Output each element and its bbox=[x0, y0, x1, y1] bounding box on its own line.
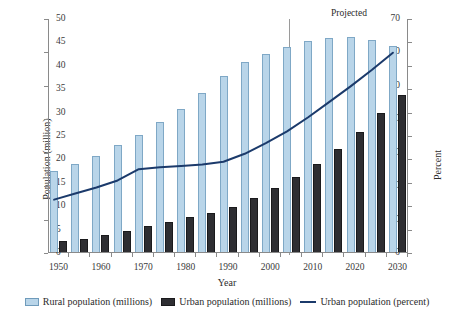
bar-urban bbox=[377, 113, 385, 252]
bar-rural bbox=[50, 171, 58, 252]
bar-rural bbox=[368, 40, 376, 252]
bar-urban bbox=[250, 198, 258, 252]
x-axis-tick bbox=[386, 253, 387, 257]
y-axis-left-tick bbox=[44, 153, 48, 154]
y-axis-right-tick bbox=[408, 42, 412, 43]
legend-item-rural: Rural population (millions) bbox=[25, 296, 152, 307]
x-axis-tick bbox=[111, 253, 112, 257]
bar-urban bbox=[292, 177, 300, 252]
x-axis-tick bbox=[174, 253, 175, 257]
bar-group bbox=[220, 19, 237, 252]
y-axis-left-tick bbox=[44, 86, 48, 87]
y-axis-right-title: Percent bbox=[432, 150, 443, 180]
legend-item-urban: Urban population (millions) bbox=[161, 296, 291, 307]
bar-group bbox=[325, 19, 342, 252]
bar-rural bbox=[114, 145, 122, 252]
x-axis-tick-label: 1970 bbox=[134, 263, 153, 273]
y-axis-right-tick bbox=[408, 159, 412, 160]
y-axis-left-tick bbox=[44, 52, 48, 53]
legend-label-urban-percent: Urban population (percent) bbox=[320, 296, 429, 307]
x-axis-tick-label: 1980 bbox=[176, 263, 195, 273]
bar-rural bbox=[220, 76, 228, 252]
plot-area: 010203040506070 05101520253035404550 195… bbox=[48, 19, 408, 253]
bar-group bbox=[92, 19, 109, 252]
bar-rural bbox=[177, 109, 185, 252]
bar-group bbox=[304, 19, 321, 252]
x-axis-tick-label: 1990 bbox=[219, 263, 238, 273]
y-axis-right-tick bbox=[408, 89, 412, 90]
bar-rural bbox=[198, 93, 206, 252]
bar-rural bbox=[241, 62, 249, 252]
bar-group bbox=[114, 19, 131, 252]
x-axis-tick-label: 2030 bbox=[388, 263, 407, 273]
x-axis-tick bbox=[280, 253, 281, 257]
y-axis-left-tick bbox=[44, 119, 48, 120]
x-axis-tick bbox=[195, 253, 196, 257]
bar-rural bbox=[389, 46, 397, 252]
bar-urban bbox=[80, 239, 88, 252]
bar-urban bbox=[59, 241, 67, 252]
bar-group bbox=[177, 19, 194, 252]
bar-group bbox=[368, 19, 385, 252]
x-axis-tick bbox=[238, 253, 239, 257]
y-axis-left-tick bbox=[44, 186, 48, 187]
legend-label-rural: Rural population (millions) bbox=[43, 296, 152, 307]
y-axis-left-tick bbox=[44, 220, 48, 221]
y-axis-left-tick bbox=[44, 253, 48, 254]
bar-rural bbox=[71, 164, 79, 252]
x-axis-tick-label: 2000 bbox=[261, 263, 280, 273]
x-axis-tick bbox=[343, 253, 344, 257]
bar-group bbox=[389, 19, 406, 252]
bar-group bbox=[198, 19, 215, 252]
y-axis-right-tick bbox=[408, 136, 412, 137]
bar-group bbox=[262, 19, 279, 252]
y-axis-right-tick bbox=[408, 66, 412, 67]
bar-rural bbox=[304, 41, 312, 252]
cropped-title-remnant bbox=[0, 0, 454, 6]
bar-rural bbox=[92, 156, 100, 252]
x-axis-tick bbox=[68, 253, 69, 257]
y-axis-right-tick bbox=[408, 253, 412, 254]
legend-swatch-rural-icon bbox=[25, 298, 39, 306]
y-axis-right-tick bbox=[408, 183, 412, 184]
chart-figure: Population (million) Percent Year Projec… bbox=[0, 0, 454, 318]
bar-urban bbox=[271, 188, 279, 252]
chart-legend: Rural population (millions) Urban popula… bbox=[0, 296, 454, 307]
bar-urban bbox=[398, 95, 406, 252]
bar-urban bbox=[144, 226, 152, 252]
y-axis-right-tick bbox=[408, 206, 412, 207]
bar-rural bbox=[325, 38, 333, 252]
bar-group bbox=[71, 19, 88, 252]
x-axis-tick-label: 1950 bbox=[49, 263, 68, 273]
x-axis-tick bbox=[301, 253, 302, 257]
bar-group bbox=[283, 19, 300, 252]
x-axis-tick bbox=[153, 253, 154, 257]
bar-group bbox=[241, 19, 258, 252]
legend-swatch-line-icon bbox=[300, 301, 316, 303]
x-axis-title: Year bbox=[0, 277, 454, 288]
bar-group bbox=[135, 19, 152, 252]
y-axis-right-tick bbox=[408, 230, 412, 231]
bar-urban bbox=[356, 132, 364, 252]
bar-group bbox=[50, 19, 67, 252]
bar-rural bbox=[347, 37, 355, 252]
y-axis-right-tick bbox=[408, 113, 412, 114]
bar-urban bbox=[207, 213, 215, 252]
bar-urban bbox=[229, 207, 237, 252]
x-axis-tick bbox=[89, 253, 90, 257]
bar-urban bbox=[334, 149, 342, 252]
bar-urban bbox=[165, 222, 173, 252]
x-axis-line bbox=[48, 252, 408, 253]
bar-urban bbox=[186, 217, 194, 252]
x-axis-tick-label: 2020 bbox=[346, 263, 365, 273]
bar-urban bbox=[123, 231, 131, 252]
bar-urban bbox=[101, 235, 109, 252]
x-axis-tick bbox=[365, 253, 366, 257]
x-axis-tick bbox=[322, 253, 323, 257]
bar-rural bbox=[156, 122, 164, 252]
legend-label-urban: Urban population (millions) bbox=[179, 296, 291, 307]
y-axis-left-tick bbox=[44, 19, 48, 20]
bar-rural bbox=[135, 135, 143, 252]
x-axis-tick bbox=[259, 253, 260, 257]
legend-swatch-urban-icon bbox=[161, 298, 175, 306]
